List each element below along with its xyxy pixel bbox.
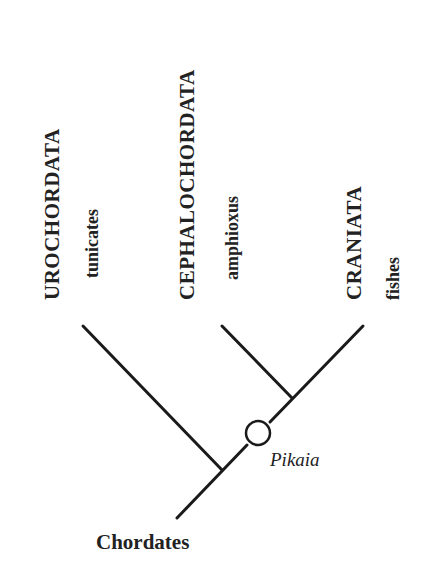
label-chordates: Chordates (96, 530, 189, 555)
branch-cephalochordata (222, 326, 292, 398)
label-craniata: CRANIATA (342, 186, 367, 300)
label-fishes: fishes (383, 257, 404, 300)
pikaia-node (246, 421, 270, 445)
label-pikaia: Pikaia (270, 449, 320, 471)
label-cephalochordata: CEPHALOCHORDATA (175, 69, 200, 300)
label-tunicates: tunicates (82, 209, 103, 278)
branch-urochordata (83, 326, 222, 470)
trunk-root (177, 445, 247, 518)
label-amphioxus: amphioxus (222, 196, 243, 280)
trunk-craniata (270, 326, 363, 422)
label-urochordata: UROCHORDATA (40, 128, 65, 300)
